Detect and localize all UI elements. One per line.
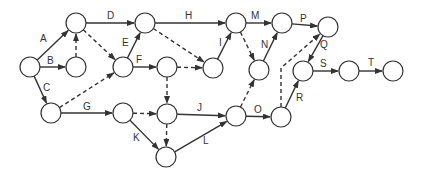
network-diagram: ABCDEFGHIJKLMNOPQRST	[0, 0, 422, 179]
activity-label-n: N	[261, 39, 268, 50]
event-node	[272, 13, 292, 33]
event-node	[383, 61, 403, 81]
activity-label-l: L	[203, 135, 209, 146]
activity-label-m: M	[251, 10, 259, 21]
dummy-arrow	[83, 30, 115, 60]
activity-label-i: I	[219, 37, 222, 48]
activity-label-h: H	[185, 10, 192, 21]
dummy-arrow	[240, 32, 254, 60]
event-node	[318, 17, 338, 37]
event-node	[293, 61, 313, 81]
event-node	[113, 57, 133, 77]
event-node	[156, 147, 176, 167]
activity-label-t: T	[368, 57, 374, 68]
activity-label-k: K	[133, 132, 140, 143]
event-node	[226, 13, 246, 33]
dummy-arrow	[153, 29, 203, 62]
event-node	[271, 107, 291, 127]
activity-arrow-p	[292, 24, 317, 26]
activities	[34, 23, 382, 152]
activity-label-c: C	[43, 82, 50, 93]
activity-label-o: O	[254, 104, 262, 115]
activity-label-j: J	[197, 102, 202, 113]
event-node	[41, 103, 61, 123]
event-node	[157, 104, 177, 124]
activity-arrow-o	[246, 116, 270, 117]
event-node	[339, 61, 359, 81]
activity-label-e: E	[122, 37, 129, 48]
activity-label-p: P	[300, 13, 307, 24]
dummy-arrow	[133, 113, 156, 114]
event-node	[113, 103, 133, 123]
activity-arrow-j	[177, 114, 225, 115]
event-node	[66, 13, 86, 33]
event-node	[203, 58, 223, 78]
activity-label-r: R	[296, 92, 303, 103]
dummy-arrow	[240, 80, 254, 107]
activity-label-d: D	[107, 10, 114, 21]
activity-label-s: S	[320, 58, 327, 69]
event-node	[135, 13, 155, 33]
dummy-activities	[59, 29, 319, 146]
activity-arrow-l	[175, 122, 227, 152]
activity-label-q: Q	[320, 39, 328, 50]
event-node	[157, 57, 177, 77]
event-node	[249, 60, 269, 80]
dummy-arrow	[177, 67, 202, 68]
event-node	[226, 106, 246, 126]
dummy-arrow	[166, 124, 167, 146]
activity-label-g: G	[83, 101, 91, 112]
event-node	[20, 57, 40, 77]
event-nodes	[20, 13, 403, 167]
event-node	[66, 57, 86, 77]
activity-label-f: F	[136, 54, 142, 65]
network-diagram-canvas: ABCDEFGHIJKLMNOPQRST	[0, 0, 422, 179]
activity-label-a: A	[40, 33, 47, 44]
activity-label-b: B	[47, 55, 54, 66]
